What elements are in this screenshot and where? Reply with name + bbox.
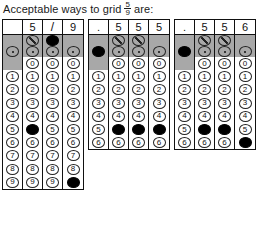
digit-bubble[interactable]: 6	[67, 137, 80, 148]
digit-bubble[interactable]: 4	[178, 111, 191, 122]
digit-bubble[interactable]: 2	[218, 84, 231, 95]
digit-bubble[interactable]: 1	[218, 71, 231, 82]
digit-bubble[interactable]: 9	[26, 177, 39, 188]
digit-bubble[interactable]: 2	[178, 84, 191, 95]
digit-bubble-filled[interactable]: 5	[218, 124, 231, 135]
digit-bubble[interactable]: 1	[198, 71, 211, 82]
decimal-bubble-cell[interactable]	[175, 46, 194, 57]
digit-bubble[interactable]: 2	[92, 84, 105, 95]
digit-bubble[interactable]: 6	[132, 137, 145, 148]
digit-bubble[interactable]: 7	[67, 150, 80, 161]
digit-bubble[interactable]: 5	[92, 124, 105, 135]
digit-bubble-cell[interactable]: 1	[215, 70, 234, 83]
digit-bubble-cell[interactable]: 3	[43, 97, 62, 110]
digit-bubble[interactable]: 4	[218, 111, 231, 122]
digit-bubble-cell[interactable]: 3	[129, 97, 148, 110]
digit-bubble[interactable]: 3	[6, 98, 19, 109]
digit-bubble[interactable]: 4	[153, 111, 166, 122]
decimal-bubble-cell[interactable]	[215, 46, 234, 57]
slash-bubble-filled[interactable]	[46, 35, 59, 46]
decimal-bubble[interactable]	[132, 46, 145, 57]
digit-bubble-cell[interactable]: 4	[109, 110, 128, 123]
digit-bubble-cell[interactable]: 5	[195, 123, 214, 136]
digit-bubble-cell[interactable]: 7	[63, 149, 83, 162]
digit-bubble[interactable]: 1	[112, 71, 125, 82]
digit-bubble-cell[interactable]: 3	[89, 97, 108, 110]
digit-bubble-cell[interactable]: 2	[195, 83, 214, 96]
digit-bubble-cell[interactable]: 6	[63, 136, 83, 149]
digit-bubble[interactable]: 6	[178, 137, 191, 148]
digit-bubble[interactable]: 4	[112, 111, 125, 122]
answer-box[interactable]: 5	[109, 20, 128, 35]
digit-bubble[interactable]: 0	[26, 58, 39, 69]
digit-bubble-cell[interactable]: 3	[175, 97, 194, 110]
decimal-bubble-cell[interactable]	[63, 46, 83, 57]
digit-bubble-cell[interactable]: 8	[63, 163, 83, 176]
decimal-bubble[interactable]	[46, 46, 59, 57]
digit-bubble[interactable]: 7	[6, 150, 19, 161]
digit-bubble-cell[interactable]: 0	[109, 57, 128, 70]
digit-bubble-cell[interactable]: 6	[129, 136, 148, 149]
digit-bubble[interactable]: 2	[112, 84, 125, 95]
digit-bubble-cell[interactable]: 0	[195, 57, 214, 70]
slash-bubble[interactable]	[112, 35, 125, 46]
decimal-bubble-cell[interactable]	[195, 46, 214, 57]
digit-bubble[interactable]: 8	[26, 164, 39, 175]
digit-bubble[interactable]: 1	[132, 71, 145, 82]
digit-bubble-cell[interactable]: 7	[3, 149, 22, 162]
decimal-bubble[interactable]	[218, 46, 231, 57]
digit-bubble-cell[interactable]: 0	[235, 57, 255, 70]
slash-bubble-cell[interactable]	[109, 35, 128, 46]
digit-bubble-cell[interactable]: 3	[235, 97, 255, 110]
digit-bubble-cell[interactable]: 0	[215, 57, 234, 70]
digit-bubble-cell[interactable]: 5	[215, 123, 234, 136]
answer-box[interactable]: .	[89, 20, 108, 35]
digit-bubble[interactable]: 6	[26, 137, 39, 148]
digit-bubble-cell[interactable]: 2	[235, 83, 255, 96]
digit-bubble-cell[interactable]: 2	[3, 83, 22, 96]
digit-bubble-cell[interactable]: 1	[129, 70, 148, 83]
slash-bubble[interactable]	[132, 35, 145, 46]
digit-bubble[interactable]: 7	[46, 150, 59, 161]
digit-bubble[interactable]: 0	[67, 58, 80, 69]
answer-box[interactable]: /	[43, 20, 62, 35]
digit-bubble-cell[interactable]: 3	[195, 97, 214, 110]
digit-bubble[interactable]: 2	[153, 84, 166, 95]
decimal-bubble[interactable]	[6, 46, 19, 57]
digit-bubble-cell[interactable]: 2	[109, 83, 128, 96]
digit-bubble[interactable]: 1	[178, 71, 191, 82]
digit-bubble[interactable]: 1	[67, 71, 80, 82]
answer-box[interactable]: 5	[23, 20, 42, 35]
digit-bubble-cell[interactable]: 1	[63, 70, 83, 83]
digit-bubble-cell[interactable]: 1	[89, 70, 108, 83]
digit-bubble-cell[interactable]: 9	[3, 176, 22, 189]
digit-bubble[interactable]: 2	[26, 84, 39, 95]
digit-bubble[interactable]: 0	[153, 58, 166, 69]
digit-bubble-filled[interactable]: 5	[26, 124, 39, 135]
digit-bubble-cell[interactable]: 4	[23, 110, 42, 123]
digit-bubble-cell[interactable]: 0	[63, 57, 83, 70]
digit-bubble-cell[interactable]: 5	[63, 123, 83, 136]
digit-bubble[interactable]: 5	[67, 124, 80, 135]
digit-bubble[interactable]: 0	[46, 58, 59, 69]
digit-bubble[interactable]: 3	[67, 98, 80, 109]
digit-bubble-cell[interactable]: 4	[63, 110, 83, 123]
digit-bubble[interactable]: 2	[46, 84, 59, 95]
digit-bubble[interactable]: 8	[6, 164, 19, 175]
digit-bubble[interactable]: 9	[46, 177, 59, 188]
answer-box[interactable]: 5	[129, 20, 148, 35]
digit-bubble-cell[interactable]: 0	[149, 57, 169, 70]
digit-bubble-cell[interactable]: 2	[175, 83, 194, 96]
digit-bubble-cell[interactable]: 2	[63, 83, 83, 96]
digit-bubble-cell[interactable]: 1	[23, 70, 42, 83]
digit-bubble-cell[interactable]: 8	[23, 163, 42, 176]
decimal-bubble-filled[interactable]	[178, 46, 191, 57]
digit-bubble[interactable]: 3	[178, 98, 191, 109]
slash-bubble-cell[interactable]	[23, 35, 42, 46]
digit-bubble[interactable]: 4	[46, 111, 59, 122]
answer-box[interactable]	[3, 20, 22, 35]
digit-bubble-filled[interactable]: 9	[67, 177, 80, 188]
decimal-bubble-cell[interactable]	[23, 46, 42, 57]
digit-bubble[interactable]: 8	[67, 164, 80, 175]
digit-bubble-cell[interactable]: 3	[63, 97, 83, 110]
